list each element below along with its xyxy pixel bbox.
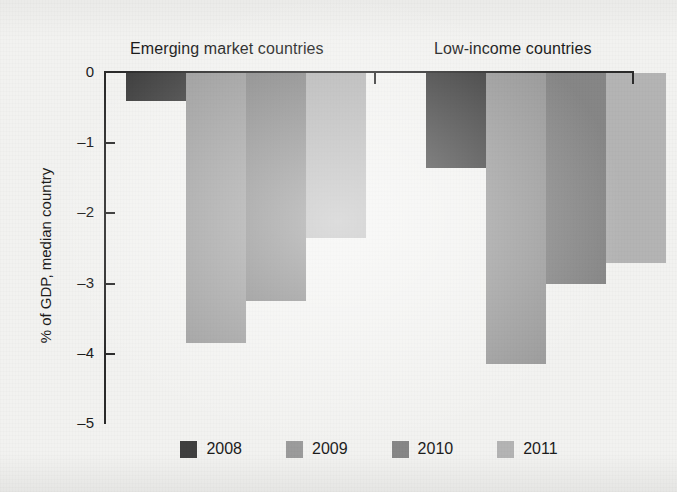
y-axis-tick	[104, 283, 115, 285]
legend-swatch-icon-2008	[180, 441, 197, 458]
plot-area	[104, 73, 634, 424]
legend-item-2008[interactable]: 2008	[180, 440, 242, 458]
y-axis-tick-label: –2	[52, 203, 94, 220]
x-axis-line	[104, 71, 634, 73]
y-axis-tick	[104, 353, 115, 355]
legend-label-2011: 2011	[523, 440, 557, 458]
bar-emerging-market-countries-2008	[126, 73, 186, 101]
y-axis-line	[104, 72, 106, 424]
legend-item-2011[interactable]: 2011	[497, 440, 557, 458]
legend-item-2010[interactable]: 2010	[392, 440, 454, 458]
y-axis-tick	[104, 212, 115, 214]
bar-emerging-market-countries-2009	[186, 73, 246, 343]
chart-legend: 2008200920102011	[104, 436, 634, 462]
y-axis-tick-label: –5	[52, 414, 94, 431]
y-axis-tick-label: –3	[52, 274, 94, 291]
bar-low-income-countries-2008	[426, 73, 486, 168]
y-axis-title: % of GDP, median country	[37, 151, 54, 361]
bar-low-income-countries-2011	[606, 73, 666, 263]
chart-figure: Emerging market countries Low-income cou…	[0, 0, 677, 492]
bar-emerging-market-countries-2011	[306, 73, 366, 238]
y-axis-tick-label: –4	[52, 344, 94, 361]
legend-label-2009: 2009	[312, 440, 348, 458]
x-axis-right-end-cap	[632, 72, 634, 84]
legend-label-2008: 2008	[206, 440, 242, 458]
legend-swatch-icon-2010	[392, 441, 409, 458]
legend-swatch-icon-2011	[497, 441, 514, 458]
group-title-emerging-market-countries: Emerging market countries	[130, 40, 324, 58]
legend-label-2010: 2010	[418, 440, 454, 458]
y-axis-tick-label: 0	[52, 63, 94, 80]
y-axis-tick-label: –1	[52, 133, 94, 150]
group-title-low-income-countries: Low-income countries	[434, 40, 592, 58]
group-divider-tick	[374, 72, 376, 84]
legend-item-2009[interactable]: 2009	[286, 440, 348, 458]
legend-swatch-icon-2009	[286, 441, 303, 458]
bar-low-income-countries-2009	[486, 73, 546, 364]
bar-emerging-market-countries-2010	[246, 73, 306, 301]
bar-low-income-countries-2010	[546, 73, 606, 284]
y-axis-tick	[104, 142, 115, 144]
